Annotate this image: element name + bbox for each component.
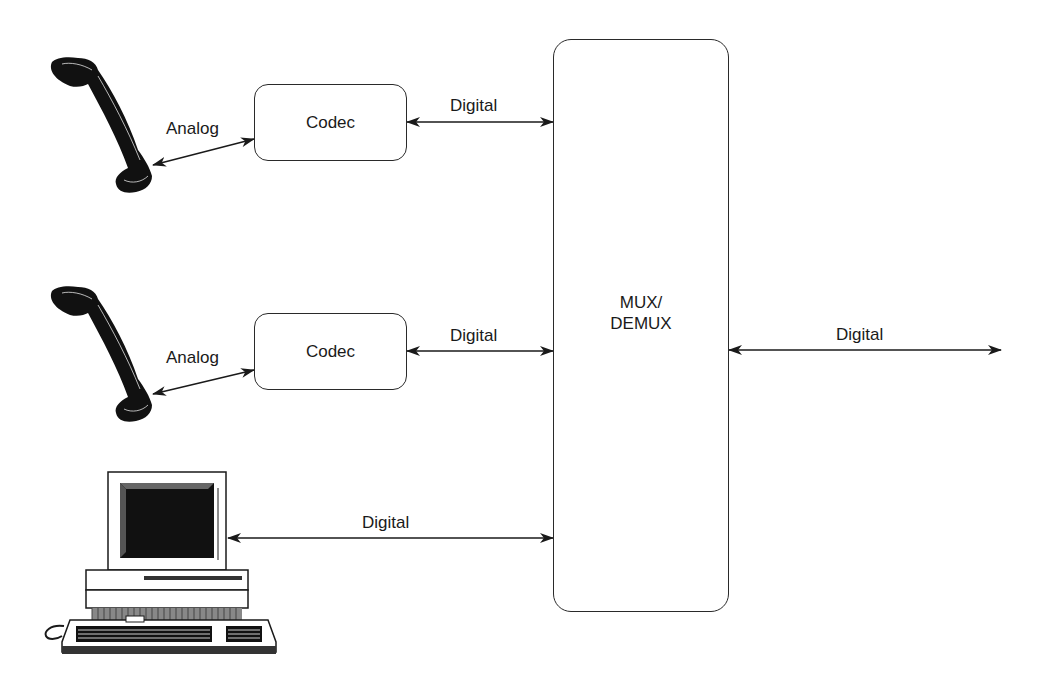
edge-label-digital-2: Digital	[450, 327, 497, 344]
edge-phone1-codec1	[153, 139, 254, 165]
edge-label-digital-1: Digital	[450, 97, 497, 114]
mux-label-line2: DEMUX	[610, 314, 671, 333]
edge-label-digital-computer: Digital	[362, 514, 409, 531]
edge-label-analog-1: Analog	[166, 120, 219, 137]
edge-label-analog-2: Analog	[166, 349, 219, 366]
mux-demux-box: MUX/ DEMUX	[553, 39, 729, 612]
codec-box-1: Codec	[254, 84, 407, 161]
desktop-computer-icon	[46, 472, 276, 654]
codec-box-2: Codec	[254, 313, 407, 390]
telephone-handset-icon	[51, 57, 152, 193]
codec-label: Codec	[306, 341, 355, 362]
mux-demux-label: MUX/ DEMUX	[610, 292, 671, 335]
telephone-handset-icon	[51, 286, 152, 422]
codec-label: Codec	[306, 112, 355, 133]
mux-label-line1: MUX/	[620, 293, 663, 312]
edge-label-digital-out: Digital	[836, 326, 883, 343]
edge-phone2-codec2	[153, 370, 254, 394]
